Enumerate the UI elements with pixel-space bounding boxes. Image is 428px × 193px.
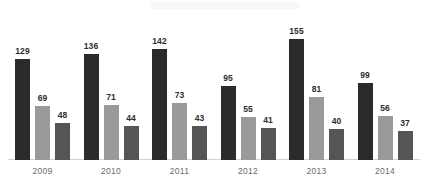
bar-chart: 1296948136714414273439555411558140995637… <box>0 0 428 193</box>
bar-group-bars: 1296948 <box>15 32 70 160</box>
bar-item[interactable]: 44 <box>124 32 139 160</box>
category-label: 2014 <box>358 166 413 176</box>
bar-item[interactable]: 56 <box>378 32 393 160</box>
bar-item[interactable]: 142 <box>152 32 167 160</box>
bar[interactable] <box>241 117 256 160</box>
bar-value-label: 71 <box>106 92 116 102</box>
bar-value-label: 69 <box>38 93 48 103</box>
category-label: 2012 <box>221 166 276 176</box>
bar-value-label: 155 <box>289 26 303 36</box>
bar-item[interactable]: 136 <box>84 32 99 160</box>
bar[interactable] <box>378 116 393 160</box>
category-label: 2010 <box>84 166 139 176</box>
bar-value-label: 48 <box>58 110 68 120</box>
bar-item[interactable]: 95 <box>221 32 236 160</box>
bar-item[interactable]: 48 <box>55 32 70 160</box>
bar-value-label: 56 <box>380 103 390 113</box>
bar[interactable] <box>172 103 187 160</box>
bar[interactable] <box>152 49 167 160</box>
bar[interactable] <box>261 128 276 160</box>
bar[interactable] <box>309 97 324 160</box>
bar-item[interactable]: 40 <box>329 32 344 160</box>
bar-group-bars: 1367144 <box>84 32 139 160</box>
plot-area: 1296948136714414273439555411558140995637… <box>0 0 428 193</box>
bar[interactable] <box>124 126 139 160</box>
bar-value-label: 99 <box>360 70 370 80</box>
bar[interactable] <box>289 39 304 160</box>
bar-value-label: 44 <box>126 113 136 123</box>
bar-value-label: 95 <box>223 73 233 83</box>
bar-group-bars: 1427343 <box>152 32 207 160</box>
bar-value-label: 43 <box>195 113 205 123</box>
bar[interactable] <box>84 54 99 160</box>
bar[interactable] <box>221 86 236 160</box>
bar[interactable] <box>329 129 344 160</box>
bar[interactable] <box>55 123 70 160</box>
bar-value-label: 41 <box>263 115 273 125</box>
bar-value-label: 129 <box>15 46 29 56</box>
bar-value-label: 40 <box>332 116 342 126</box>
bar-item[interactable]: 81 <box>309 32 324 160</box>
bar[interactable] <box>398 131 413 160</box>
bar[interactable] <box>15 59 30 160</box>
bar[interactable] <box>35 106 50 160</box>
category-label: 2009 <box>15 166 70 176</box>
bar-item[interactable]: 129 <box>15 32 30 160</box>
bar-item[interactable]: 71 <box>104 32 119 160</box>
bar-item[interactable]: 41 <box>261 32 276 160</box>
bar-item[interactable]: 43 <box>192 32 207 160</box>
bar-item[interactable]: 69 <box>35 32 50 160</box>
bar-value-label: 136 <box>84 41 98 51</box>
bar[interactable] <box>358 83 373 160</box>
bar-value-label: 142 <box>152 36 166 46</box>
category-label: 2013 <box>289 166 344 176</box>
bar-group-bars: 955541 <box>221 32 276 160</box>
bar[interactable] <box>192 126 207 160</box>
bar-item[interactable]: 73 <box>172 32 187 160</box>
bar-value-label: 73 <box>175 90 185 100</box>
category-label: 2011 <box>152 166 207 176</box>
bar-value-label: 55 <box>243 104 253 114</box>
bar-value-label: 81 <box>312 84 322 94</box>
bar[interactable] <box>104 105 119 160</box>
bar-item[interactable]: 55 <box>241 32 256 160</box>
bar-item[interactable]: 155 <box>289 32 304 160</box>
bar-item[interactable]: 99 <box>358 32 373 160</box>
bar-group-bars: 995637 <box>358 32 413 160</box>
bar-item[interactable]: 37 <box>398 32 413 160</box>
bar-group-bars: 1558140 <box>289 32 344 160</box>
bar-value-label: 37 <box>400 118 410 128</box>
